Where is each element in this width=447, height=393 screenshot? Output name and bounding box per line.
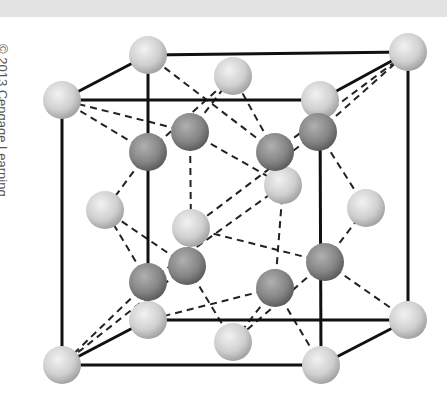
cube-edge [148, 52, 408, 55]
lattice-atom [214, 323, 252, 361]
bond-line [148, 288, 275, 320]
lattice-atom [389, 301, 427, 339]
lattice-atom [347, 189, 385, 227]
tetrahedral-atom [299, 113, 337, 151]
crystal-structure-diagram [0, 0, 447, 393]
tetrahedral-atom [168, 247, 206, 285]
lattice-atom [302, 346, 340, 384]
tetrahedral-atom [256, 133, 294, 171]
bond-line [148, 55, 275, 152]
tetrahedral-atom [129, 263, 167, 301]
bond-line [275, 52, 408, 152]
lattice-atom [129, 301, 167, 339]
lattice-atom [389, 33, 427, 71]
lattice-atom [129, 36, 167, 74]
lattice-atom [86, 191, 124, 229]
lattice-atom [43, 81, 81, 119]
tetrahedral-atom [129, 133, 167, 171]
lattice-atom [172, 209, 210, 247]
tetrahedral-atom [256, 269, 294, 307]
atoms [43, 33, 427, 384]
lattice-atom [264, 166, 302, 204]
tetrahedral-atom [171, 113, 209, 151]
tetrahedral-atom [306, 243, 344, 281]
bond-line [62, 100, 190, 132]
bond-line [191, 228, 325, 262]
lattice-atom [214, 57, 252, 95]
lattice-atom [43, 346, 81, 384]
